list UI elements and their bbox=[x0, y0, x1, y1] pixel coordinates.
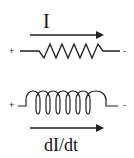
inductor-group: + - dI/dt bbox=[9, 91, 126, 155]
resistor-group: I + - bbox=[9, 10, 126, 58]
resistor-minus-sign: - bbox=[123, 46, 126, 56]
inductor-plus-sign: + bbox=[9, 100, 14, 110]
resistor-symbol bbox=[20, 44, 120, 58]
rate-label: dI/dt bbox=[44, 135, 78, 155]
current-label: I bbox=[43, 10, 50, 32]
inductor-symbol bbox=[18, 91, 118, 114]
rate-arrow bbox=[30, 124, 104, 132]
inductor-minus-sign: - bbox=[123, 100, 126, 110]
circuit-diagram: I + - + - dI/dt bbox=[0, 0, 134, 158]
resistor-plus-sign: + bbox=[9, 46, 14, 56]
current-arrow bbox=[30, 31, 104, 39]
